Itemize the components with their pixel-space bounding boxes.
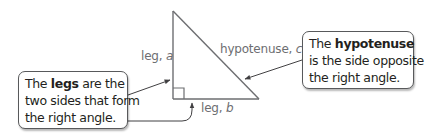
legs-callout-text: The — [25, 76, 51, 91]
legs-term: legs — [51, 76, 79, 91]
leg-b-label: leg, b — [201, 101, 233, 115]
leg-b-label-prefix: leg, — [201, 101, 226, 115]
hypotenuse-arrow — [245, 60, 302, 79]
hypotenuse-callout-text: The — [309, 36, 335, 51]
hypotenuse-callout-line-3: the right angle. — [309, 69, 413, 86]
legs-callout-line-1: The legs are the — [25, 75, 127, 92]
leg-a-label: leg, a — [141, 49, 173, 63]
hypotenuse-label: hypotenuse, c — [220, 42, 302, 56]
hypotenuse-term: hypotenuse — [335, 36, 414, 51]
legs-callout: The legs are the two sides that form the… — [18, 71, 128, 129]
legs-callout-line-3: the right angle. — [25, 109, 127, 126]
leg-a-variable: a — [166, 49, 173, 63]
hypotenuse-callout: The hypotenuse is the side opposite the … — [302, 31, 414, 89]
leg-a-label-prefix: leg, — [141, 49, 166, 63]
right-angle-marker — [173, 88, 184, 99]
hypotenuse-callout-line-1: The hypotenuse — [309, 35, 413, 52]
leg-b-variable: b — [226, 101, 233, 115]
hypotenuse-callout-line-2: is the side opposite — [309, 52, 413, 69]
legs-callout-line-2: two sides that form — [25, 92, 127, 109]
hypotenuse-label-prefix: hypotenuse, — [220, 42, 296, 56]
legs-callout-text: are the — [79, 76, 125, 91]
right-triangle-diagram: leg, a hypotenuse, c leg, b The legs are… — [0, 0, 426, 134]
